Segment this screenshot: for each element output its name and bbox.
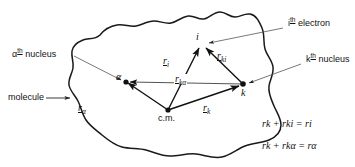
label-alpha-nucleus: αth nucleus xyxy=(12,50,56,59)
point-label-i: i xyxy=(196,32,199,42)
molecule-outline xyxy=(69,12,281,158)
equation-2: rk + rkα = rα xyxy=(262,141,317,151)
molecule-coordinate-diagram: αth nucleus molecule ith electron kth nu… xyxy=(0,0,355,167)
point-label-cm: c.m. xyxy=(158,114,175,123)
equation-1: rk + rki = ri xyxy=(262,119,312,129)
vector-r-alpha xyxy=(128,83,168,110)
dot-alpha xyxy=(123,79,128,84)
pointer-i-electron xyxy=(209,28,283,43)
dot-cm xyxy=(165,107,170,112)
vector-label-r-k: rk xyxy=(203,103,210,113)
pointer-k-nucleus xyxy=(249,64,301,83)
vector-label-r-i: ri xyxy=(163,56,169,66)
point-label-alpha: α xyxy=(116,72,121,82)
dot-k xyxy=(240,81,246,87)
vector-label-r-alpha: rα xyxy=(78,103,86,113)
vector-label-r-kalpha: rkα xyxy=(174,74,187,84)
label-molecule: molecule xyxy=(8,93,44,102)
callout-pointer-lines xyxy=(46,28,301,98)
label-k-nucleus: kth nucleus xyxy=(306,55,349,64)
label-i-electron: ith electron xyxy=(288,19,330,28)
vector-label-r-ki: rki xyxy=(217,51,226,61)
point-label-k: k xyxy=(241,88,245,98)
pointer-alpha-nucleus xyxy=(74,56,121,80)
